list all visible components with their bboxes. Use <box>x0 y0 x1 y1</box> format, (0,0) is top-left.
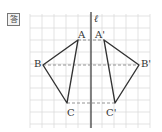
label-c: C <box>67 107 75 118</box>
grid <box>30 14 150 128</box>
triangle-abc-prime <box>104 40 139 103</box>
reflection-diagram: ℓ A A' B B' C C' <box>0 0 162 132</box>
axis-label: ℓ <box>94 13 98 24</box>
label-b-prime: B' <box>141 58 151 69</box>
label-a-prime: A' <box>94 29 105 40</box>
label-c-prime: C' <box>106 107 116 118</box>
label-a: A <box>77 29 86 40</box>
label-b: B <box>34 58 41 69</box>
triangle-abc <box>43 40 78 103</box>
